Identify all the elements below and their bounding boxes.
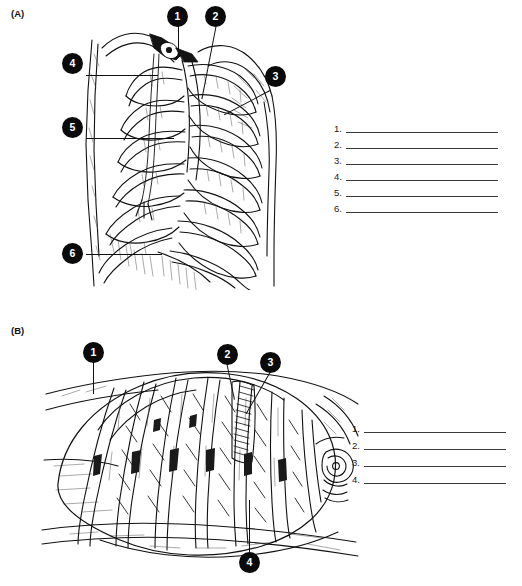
answer-blank-line[interactable] (364, 432, 506, 433)
answer-row[interactable]: 1. (352, 417, 506, 434)
answer-number: 5. (334, 188, 346, 199)
leader-line-a1 (178, 26, 179, 56)
leader-line-b1 (93, 362, 94, 394)
panel-a-letter: (A) (11, 9, 24, 19)
answer-number: 3. (352, 458, 364, 469)
marker-a-1[interactable]: 1 (167, 6, 188, 27)
answer-list-panel-a: 1. 2. 3. 4. 5. 6. (334, 118, 498, 214)
marker-b-4[interactable]: 4 (239, 552, 260, 573)
answer-row[interactable]: 6. (334, 198, 498, 214)
answer-blank-line[interactable] (364, 449, 506, 450)
marker-b-3[interactable]: 3 (260, 352, 281, 373)
answer-row[interactable]: 1. (334, 118, 498, 134)
figure-a-lineart (58, 4, 318, 290)
answer-blank-line[interactable] (346, 132, 498, 133)
leader-line-b4 (249, 500, 250, 552)
leader-line-a6 (86, 254, 162, 255)
answer-blank-line[interactable] (364, 483, 506, 484)
answer-number: 2. (334, 140, 346, 151)
answer-blank-line[interactable] (364, 466, 506, 467)
figure-thoracic-wall-anterior-view (58, 4, 318, 290)
answer-number: 1. (352, 424, 364, 435)
answer-row[interactable]: 5. (334, 182, 498, 198)
answer-blank-line[interactable] (346, 164, 498, 165)
leader-line-a5 (86, 138, 174, 139)
figure-intercostal-muscles-detail (40, 334, 360, 584)
answer-blank-line[interactable] (346, 180, 498, 181)
answer-row[interactable]: 2. (334, 134, 498, 150)
marker-b-2[interactable]: 2 (217, 344, 238, 365)
marker-b-1[interactable]: 1 (83, 342, 104, 363)
marker-a-2[interactable]: 2 (205, 6, 226, 27)
answer-number: 2. (352, 441, 364, 452)
answer-number: 3. (334, 156, 346, 167)
answer-list-panel-b: 1. 2. 3. 4. (352, 417, 506, 485)
panel-b-letter: (B) (11, 326, 24, 336)
answer-row[interactable]: 4. (352, 468, 506, 485)
marker-a-3[interactable]: 3 (265, 66, 286, 87)
answer-blank-line[interactable] (346, 212, 498, 213)
worksheet-page: (A) (0, 0, 522, 586)
marker-a-5[interactable]: 5 (62, 117, 83, 138)
answer-number: 4. (334, 172, 346, 183)
answer-blank-line[interactable] (346, 148, 498, 149)
answer-number: 4. (352, 475, 364, 486)
answer-row[interactable]: 4. (334, 166, 498, 182)
marker-a-4[interactable]: 4 (62, 53, 83, 74)
answer-number: 6. (334, 204, 346, 215)
answer-row[interactable]: 2. (352, 434, 506, 451)
answer-row[interactable]: 3. (334, 150, 498, 166)
answer-number: 1. (334, 124, 346, 135)
figure-b-lineart (40, 334, 360, 584)
answer-blank-line[interactable] (346, 196, 498, 197)
leader-line-a4 (86, 75, 158, 76)
answer-row[interactable]: 3. (352, 451, 506, 468)
marker-a-6[interactable]: 6 (62, 243, 83, 264)
